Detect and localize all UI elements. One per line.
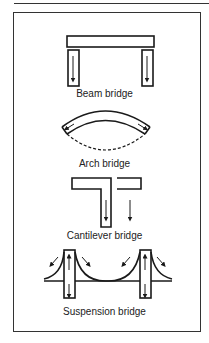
arch-bridge: [62, 111, 150, 150]
cantilever-bridge: [72, 178, 141, 227]
arch-bridge-label: Arch bridge: [0, 158, 209, 169]
bridge-types-diagram: [0, 0, 209, 343]
cantilever-bridge-label: Cantilever bridge: [0, 230, 209, 241]
beam-bridge: [67, 36, 154, 86]
suspension-bridge-label: Suspension bridge: [0, 306, 209, 317]
suspension-bridge: [44, 250, 172, 298]
beam-bridge-label: Beam bridge: [0, 88, 209, 99]
